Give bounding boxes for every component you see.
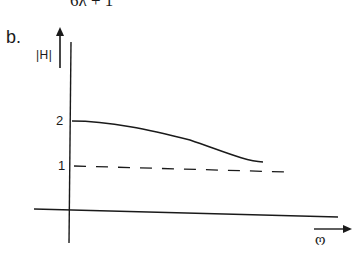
x-arrow-icon xyxy=(314,225,352,233)
y-axis xyxy=(69,42,71,243)
x-axis xyxy=(34,209,338,217)
y-arrow-icon xyxy=(56,27,64,68)
magnitude-curve xyxy=(72,121,263,162)
magnitude-plot xyxy=(0,0,353,257)
asymptote-dashed-line xyxy=(74,166,287,172)
